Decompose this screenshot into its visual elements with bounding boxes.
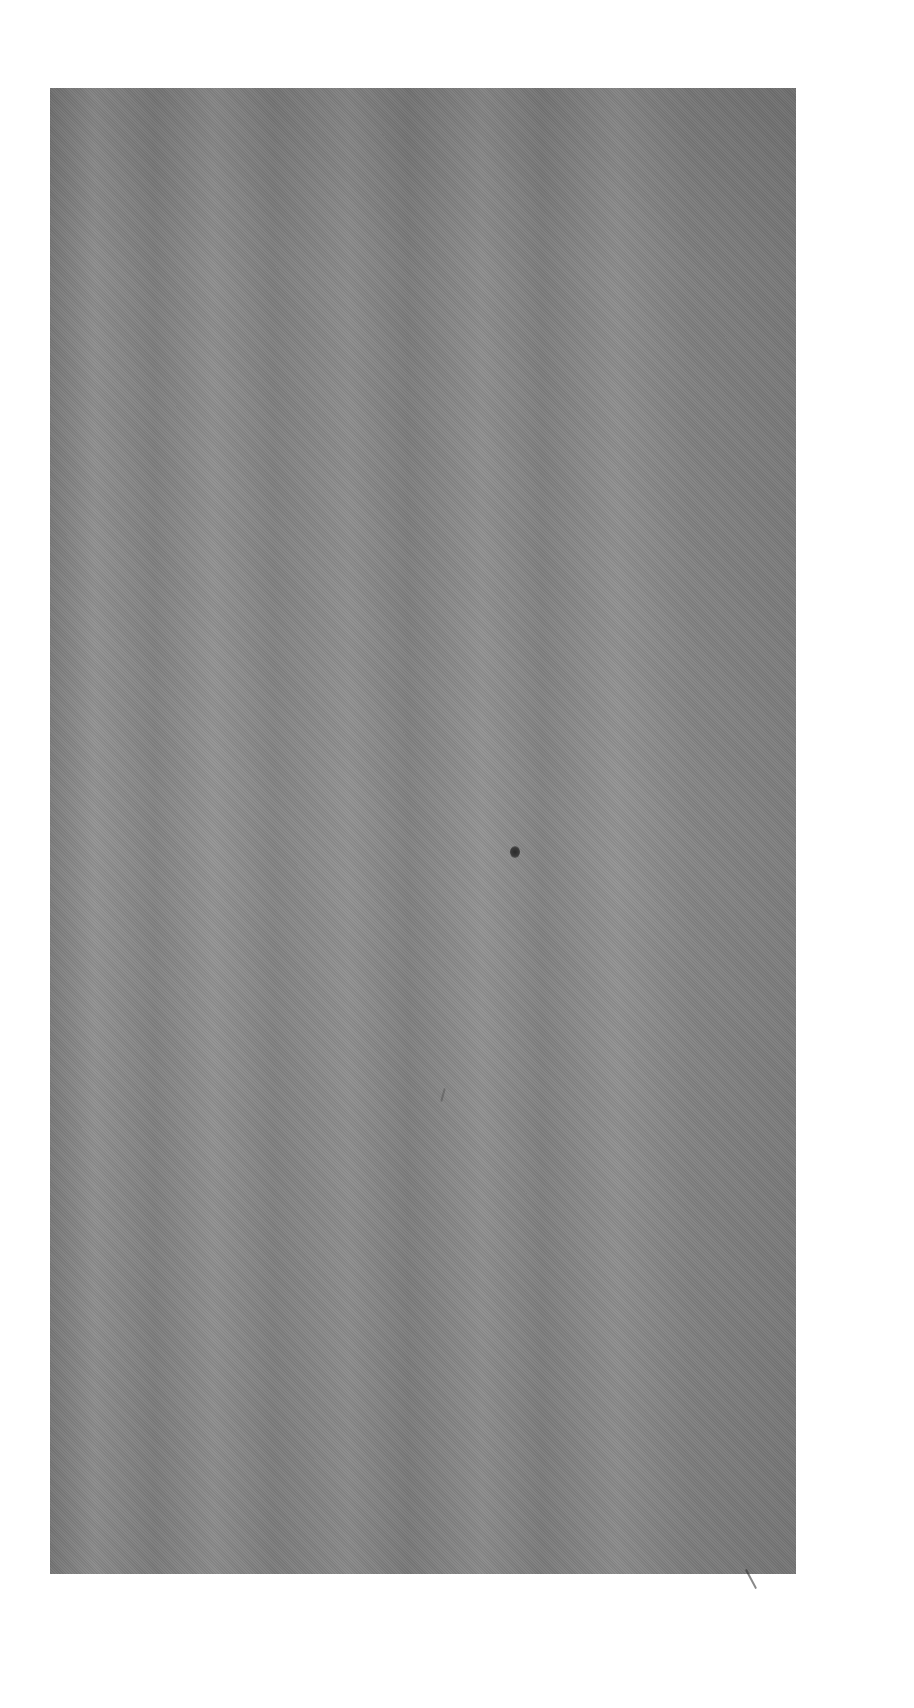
- dark-spot: [510, 846, 520, 858]
- gray-textured-surface: [50, 88, 796, 1574]
- faint-mark: [440, 1088, 446, 1102]
- faint-scratch: [745, 1569, 757, 1589]
